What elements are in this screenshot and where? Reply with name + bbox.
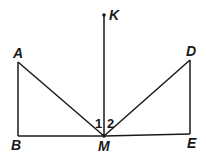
label-m: M — [98, 138, 110, 154]
angle-2-label: 2 — [107, 116, 114, 131]
label-e: E — [187, 135, 197, 151]
label-k: K — [109, 7, 120, 23]
angle-1-label: 1 — [95, 116, 102, 131]
segment-me — [104, 134, 190, 136]
label-a: A — [12, 45, 23, 61]
segment-am — [18, 62, 104, 136]
diagram-svg: K A B M E D 1 2 — [0, 0, 206, 161]
geometry-figure: K A B M E D 1 2 — [0, 0, 206, 161]
label-b: B — [11, 137, 21, 153]
segment-dm — [104, 60, 190, 136]
point-k-dot — [102, 13, 106, 17]
label-d: D — [186, 43, 196, 59]
